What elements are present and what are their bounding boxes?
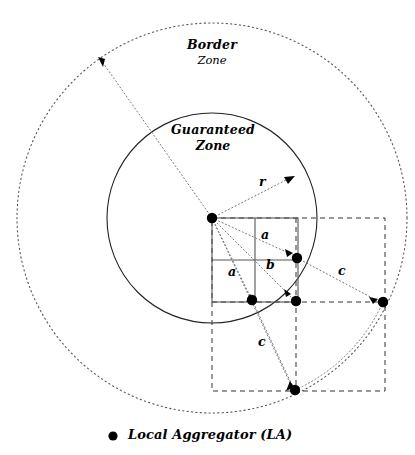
legend-marker-dot — [108, 431, 117, 440]
legend-label: Local Aggregator (LA) — [128, 428, 292, 442]
distance-label-c-bottom: c — [258, 335, 266, 348]
la-dot-far-right[interactable] — [378, 297, 388, 307]
la-dot-far-bottom[interactable] — [290, 385, 300, 395]
cell-label-a-top: a — [261, 228, 269, 241]
distance-label-c-right: c — [338, 264, 346, 277]
border-zone-subtitle: Zone — [197, 54, 226, 66]
radius-r-line — [212, 177, 292, 218]
la-dot-cell-corner[interactable] — [292, 253, 302, 263]
solid-grid-group — [212, 218, 298, 302]
diagram-svg — [0, 0, 415, 455]
la-dot-bottom-corner[interactable] — [291, 296, 301, 306]
la-dot-bottom-inner[interactable] — [247, 295, 257, 305]
border-zone-title: Border — [187, 38, 237, 51]
guaranteed-zone-subtitle: Zone — [196, 139, 231, 152]
arrowhead-cell-corner — [285, 249, 293, 257]
lead-line-center-to-bottom-inner — [212, 218, 250, 296]
radius-label-r: r — [259, 175, 266, 188]
la-dot-center[interactable] — [207, 213, 217, 223]
guaranteed-zone-title: Guaranteed — [171, 123, 255, 136]
lead-line-center-to-bottom-corner — [212, 218, 291, 297]
lead-line-center-to-cell-corner — [212, 218, 293, 255]
cell-label-b: b — [266, 258, 275, 271]
arrowheads-group — [98, 57, 378, 391]
cell-label-a-left: a — [228, 265, 236, 278]
measurement-lines-group — [101, 60, 378, 385]
outer-dotted-arc — [295, 302, 383, 390]
arrowhead-border-radius — [98, 57, 105, 67]
figure-canvas: Border Zone Guaranteed Zone r a a b c c … — [0, 0, 415, 455]
